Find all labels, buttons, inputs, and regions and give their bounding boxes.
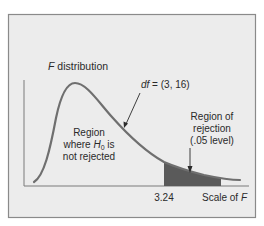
svg-text:not rejected: not rejected <box>63 151 115 162</box>
x-axis-label: Scale of F <box>202 192 248 203</box>
svg-text:rejection: rejection <box>193 123 231 134</box>
critical-value-label: 3.24 <box>154 192 174 203</box>
df-label: df = (3, 16) <box>141 79 190 90</box>
f-distribution-figure: F distribution df = (3, 16) Region where… <box>0 0 264 226</box>
svg-text:where H0 is: where H0 is <box>62 139 114 151</box>
svg-text:Region of: Region of <box>191 111 234 122</box>
chart-title: F distribution <box>48 60 108 72</box>
svg-text:Region: Region <box>73 127 105 138</box>
svg-text:(.05 level): (.05 level) <box>190 135 234 146</box>
rejection-region-label: Region of rejection (.05 level) <box>190 111 234 146</box>
